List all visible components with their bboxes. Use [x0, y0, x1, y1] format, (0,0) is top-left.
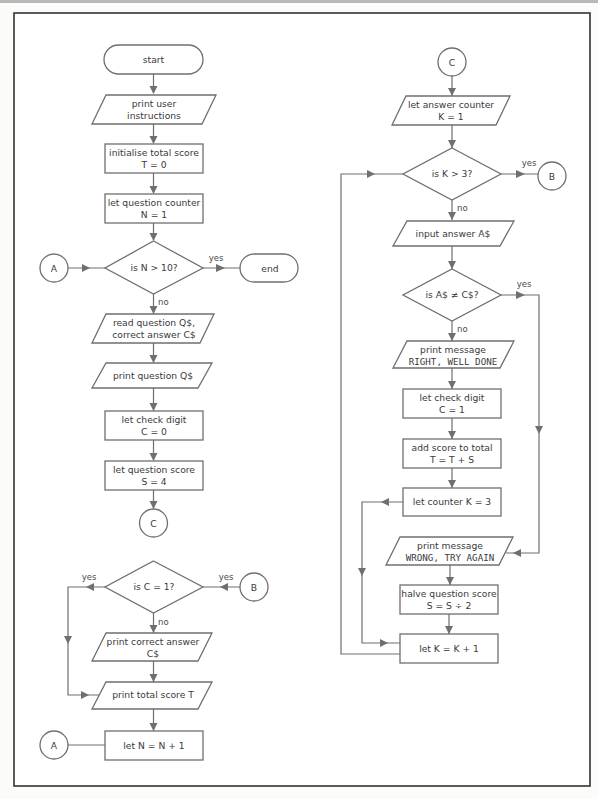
halve-score-line1: halve question score [401, 588, 497, 599]
decision-c-label: is C = 1? [134, 581, 175, 592]
decision-n-label: is N > 10? [130, 262, 177, 273]
answer-counter-line2: K = 1 [438, 111, 463, 122]
print-instructions-io: print user instructions [92, 95, 216, 124]
print-correct-answer-line2: C$ [147, 648, 159, 659]
increment-n-process: let N = N + 1 [105, 731, 203, 760]
halve-score-line2: S = S ÷ 2 [427, 600, 472, 611]
print-right-line1: print message [420, 344, 486, 355]
add-score-line2: T = T + S [429, 454, 474, 465]
print-wrong-io: print message WRONG, TRY AGAIN [386, 537, 513, 565]
end-terminator: end [240, 254, 298, 282]
check-digit-one-line2: C = 1 [439, 404, 465, 415]
decision-k-yes-label: yes [522, 158, 537, 168]
connector-c-out-label: C [150, 518, 156, 529]
decision-a-no-label: no [457, 324, 468, 334]
question-counter-process: let question counter N = 1 [105, 194, 203, 223]
decision-a-yes-label: yes [517, 279, 532, 289]
decision-c-no-label: no [158, 617, 169, 627]
start-terminator: start [104, 45, 203, 74]
decision-c-yes-label: yes [82, 572, 97, 582]
question-score-line2: S = 4 [141, 476, 166, 487]
halve-score-process: halve question score S = S ÷ 2 [400, 585, 498, 614]
print-wrong-line1: print message [417, 540, 483, 551]
read-question-io: read question Q$, correct answer C$ [92, 314, 214, 343]
print-instructions-line2: instructions [127, 110, 181, 121]
start-label: start [143, 54, 165, 65]
decision-n-no-label: no [158, 297, 169, 307]
counter-k3-process: let counter K = 3 [403, 488, 501, 516]
increment-k-label: let K = K + 1 [419, 643, 479, 654]
question-counter-line1: let question counter [108, 197, 201, 208]
init-total-line1: initialise total score [109, 147, 199, 158]
connector-c-out: C [140, 509, 168, 537]
connector-b-yes-label: yes [219, 572, 234, 582]
connector-b-out-label: B [549, 171, 555, 182]
read-question-line1: read question Q$, [113, 317, 195, 328]
init-total-process: initialise total score T = 0 [105, 144, 203, 173]
input-answer-io: input answer A$ [393, 221, 514, 246]
flowchart: start print user instructions initialise… [0, 0, 598, 799]
print-right-io: print message RIGHT, WELL DONE [393, 341, 514, 368]
print-question-io: print question Q$ [92, 363, 212, 388]
print-wrong-line2: WRONG, TRY AGAIN [406, 552, 495, 563]
print-total-label: print total score T [112, 689, 194, 700]
answer-counter-io: let answer counter K = 1 [392, 96, 510, 125]
connector-b-in-label: B [251, 582, 257, 593]
connector-a-out: A [40, 731, 68, 759]
init-total-line2: T = 0 [141, 159, 167, 170]
print-correct-answer-line1: print correct answer [107, 636, 200, 647]
connector-b-out: B [538, 162, 566, 190]
connector-c-in: C [438, 48, 466, 76]
check-digit-zero-process: let check digit C = 0 [105, 411, 203, 440]
print-right-line2: RIGHT, WELL DONE [409, 356, 498, 367]
answer-counter-line1: let answer counter [408, 99, 494, 110]
decision-a-label: is A$ ≠ C$? [425, 289, 478, 300]
connector-a-in: A [40, 254, 68, 282]
counter-k3-label: let counter K = 3 [413, 496, 492, 507]
print-question-label: print question Q$ [113, 370, 193, 381]
diagram-frame [14, 13, 590, 786]
connector-a-in-label: A [51, 263, 58, 274]
end-label: end [261, 263, 278, 274]
check-digit-zero-line1: let check digit [122, 414, 187, 425]
connector-b-in: B [240, 573, 268, 601]
add-score-line1: add score to total [412, 442, 493, 453]
connector-a-out-label: A [51, 740, 58, 751]
check-digit-one-line1: let check digit [420, 392, 485, 403]
decision-k-no-label: no [457, 203, 468, 213]
check-digit-zero-line2: C = 0 [141, 426, 167, 437]
check-digit-one-process: let check digit C = 1 [403, 389, 501, 418]
increment-k-process: let K = K + 1 [400, 634, 498, 663]
question-counter-line2: N = 1 [141, 209, 167, 220]
decision-k-label: is K > 3? [432, 168, 473, 179]
decision-n-yes-label: yes [209, 253, 224, 263]
question-score-process: let question score S = 4 [105, 461, 203, 490]
input-answer-label: input answer A$ [416, 228, 491, 239]
read-question-line2: correct answer C$ [112, 329, 196, 340]
connector-c-in-label: C [449, 57, 455, 68]
add-score-process: add score to total T = T + S [403, 439, 501, 468]
increment-n-label: let N = N + 1 [123, 740, 184, 751]
print-total-io: print total score T [92, 682, 212, 709]
print-correct-answer-io: print correct answer C$ [92, 633, 212, 661]
print-instructions-line1: print user [132, 98, 177, 109]
question-score-line1: let question score [113, 464, 195, 475]
